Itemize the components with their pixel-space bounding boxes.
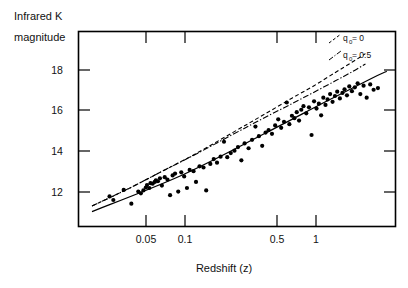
data-point xyxy=(122,188,126,192)
data-point xyxy=(372,88,376,92)
data-point xyxy=(267,128,271,132)
data-point xyxy=(270,132,274,136)
data-point xyxy=(276,117,280,121)
data-point xyxy=(260,144,264,148)
x-tick-label-0.05: 0.05 xyxy=(136,233,157,245)
legend-label-q0-half-q: q xyxy=(343,50,348,60)
data-point xyxy=(107,194,111,198)
data-point xyxy=(368,82,372,86)
data-point xyxy=(292,116,296,120)
data-point xyxy=(317,102,321,106)
hubble-diagram-figure: Infrared K magnitude 18 16 14 12 0.05 0.… xyxy=(0,0,408,288)
data-point xyxy=(361,84,365,88)
data-point xyxy=(236,145,240,149)
data-point xyxy=(222,140,226,144)
y-axis-label-line2: magnitude xyxy=(14,31,65,43)
data-point xyxy=(350,89,354,93)
data-point xyxy=(330,100,334,104)
data-point xyxy=(353,85,357,89)
data-point xyxy=(287,122,291,126)
data-point xyxy=(376,86,380,90)
data-point xyxy=(185,186,189,190)
data-point xyxy=(173,171,177,175)
data-point xyxy=(282,120,286,124)
data-point xyxy=(197,164,201,168)
data-point xyxy=(246,146,250,150)
data-point xyxy=(129,202,133,206)
figure-background xyxy=(0,0,408,288)
data-point xyxy=(333,94,337,98)
data-point xyxy=(147,186,151,190)
data-point xyxy=(342,87,346,91)
y-tick-label-12: 12 xyxy=(51,186,63,198)
data-point xyxy=(179,170,183,174)
data-point xyxy=(299,108,303,112)
data-point xyxy=(321,96,325,100)
data-point xyxy=(358,92,362,96)
data-point xyxy=(314,106,318,110)
data-point xyxy=(208,162,212,166)
y-tick-label-18: 18 xyxy=(51,64,63,76)
data-point xyxy=(301,104,305,108)
data-point xyxy=(111,198,115,202)
data-point xyxy=(335,90,339,94)
data-point xyxy=(182,174,186,178)
data-point xyxy=(194,180,198,184)
legend-label-q0-half-rest: = 0.5 xyxy=(352,50,371,60)
x-tick-label-0.1: 0.1 xyxy=(178,233,193,245)
data-point xyxy=(212,157,216,161)
data-point xyxy=(307,105,311,109)
data-point xyxy=(312,99,316,103)
data-point xyxy=(338,96,342,100)
data-point xyxy=(201,165,205,169)
data-point xyxy=(229,151,233,155)
data-point xyxy=(232,149,236,153)
data-point xyxy=(160,183,164,187)
data-point xyxy=(253,124,257,128)
data-point xyxy=(250,138,254,142)
data-point xyxy=(295,110,299,114)
data-point xyxy=(176,189,180,193)
legend-label-q0-zero-q: q xyxy=(343,33,348,43)
data-point xyxy=(158,176,162,180)
data-point xyxy=(191,169,195,173)
data-point xyxy=(257,134,261,138)
data-point xyxy=(297,118,301,122)
data-point xyxy=(340,91,344,95)
data-point xyxy=(323,103,327,107)
y-tick-label-14: 14 xyxy=(51,145,63,157)
data-point xyxy=(319,113,323,117)
data-point xyxy=(356,81,360,85)
data-point xyxy=(285,100,289,104)
data-point xyxy=(365,96,369,100)
data-point xyxy=(225,155,229,159)
data-point xyxy=(168,193,172,197)
y-tick-label-16: 16 xyxy=(51,104,63,116)
data-point xyxy=(328,92,332,96)
legend-label-q0-zero-rest: = 0 xyxy=(352,33,364,43)
data-point xyxy=(309,133,313,137)
data-point xyxy=(279,126,283,130)
x-tick-label-0.5: 0.5 xyxy=(270,233,285,245)
x-axis-label: Redshift (z) xyxy=(196,262,252,274)
data-point xyxy=(325,97,329,101)
x-tick-label-1: 1 xyxy=(313,233,319,245)
data-point xyxy=(273,123,277,127)
data-point xyxy=(239,158,243,162)
data-point xyxy=(242,141,246,145)
y-axis-label-line1: Infrared K xyxy=(14,10,63,22)
data-point xyxy=(347,84,351,88)
data-point xyxy=(218,155,222,159)
data-point xyxy=(204,188,208,192)
data-point xyxy=(188,168,192,172)
data-point xyxy=(165,177,169,181)
data-point xyxy=(304,111,308,115)
data-point xyxy=(345,93,349,97)
data-point xyxy=(215,161,219,165)
